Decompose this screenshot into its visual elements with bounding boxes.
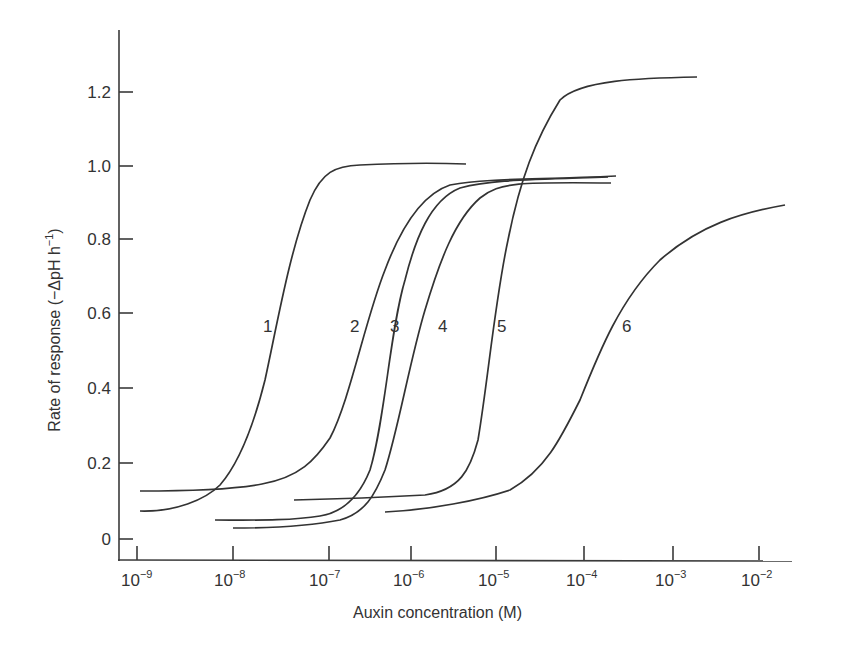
y-tick-label: 0 <box>102 530 111 549</box>
x-tick-label: 10−4 <box>566 568 597 590</box>
curve-2 <box>140 176 616 491</box>
x-tick-label: 10−2 <box>741 568 772 590</box>
curve-label-5: 5 <box>497 317 506 336</box>
curve-label-3: 3 <box>390 317 399 336</box>
x-tick-label: 10−5 <box>478 568 509 590</box>
y-tick-label: 1.2 <box>87 83 111 102</box>
y-ticks <box>119 92 133 539</box>
x-ticks <box>137 546 759 560</box>
y-tick-labels: 0 0.2 0.4 0.6 0.8 1.0 1.2 <box>87 83 111 549</box>
curve-label-2: 2 <box>350 317 359 336</box>
curve-3 <box>215 177 608 520</box>
y-tick-label: 0.4 <box>87 379 111 398</box>
x-tick-label: 10−7 <box>309 568 340 590</box>
curve-label-6: 6 <box>622 317 631 336</box>
y-tick-label: 0.6 <box>87 304 111 323</box>
x-axis-title: Auxin concentration (M) <box>353 604 522 621</box>
y-tick-label: 0.8 <box>87 230 111 249</box>
curve-label-4: 4 <box>438 317 447 336</box>
x-tick-label: 10−3 <box>655 568 686 590</box>
x-tick-label: 10−8 <box>214 568 245 590</box>
x-tick-label: 10−9 <box>121 568 152 590</box>
x-axis <box>118 560 792 561</box>
y-tick-label: 0.2 <box>87 454 111 473</box>
dose-response-chart: 0 0.2 0.4 0.6 0.8 1.0 1.2 10−9 10−8 10−7… <box>0 0 856 656</box>
curve-label-1: 1 <box>263 317 272 336</box>
x-tick-labels: 10−9 10−8 10−7 10−6 10−5 10−4 10−3 10−2 <box>121 568 772 590</box>
x-tick-label: 10−6 <box>393 568 424 590</box>
y-tick-label: 1.0 <box>87 157 111 176</box>
y-axis-title: Rate of response (−ΔpH h−1) <box>43 228 63 431</box>
